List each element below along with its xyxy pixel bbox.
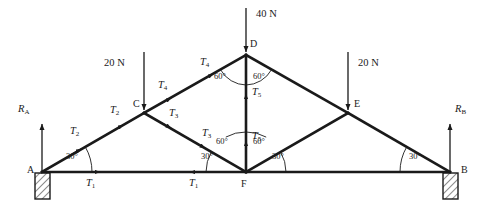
reaction-label-B-subscript: B [461, 108, 466, 116]
angle-label-F-right-60: 60° [253, 137, 265, 146]
load-label-20N-left: 20 N [104, 58, 125, 69]
t3-upper-subscript: 3 [175, 112, 179, 120]
node-label-D: D [250, 39, 257, 49]
member-A-C [42, 113, 144, 172]
member-C-F [144, 113, 246, 172]
angle-label-F-left-30: 30° [201, 152, 213, 161]
node-label-A: A [27, 165, 34, 175]
angle-label-A-30: 30° [66, 152, 78, 161]
t4-lower-subscript: 4 [164, 84, 168, 92]
t4-upper-subscript: 4 [206, 61, 210, 69]
node-label-C: C [133, 99, 140, 109]
t2-upper-subscript: 2 [116, 109, 120, 117]
force-arrow-T3-lower [196, 143, 205, 148]
truss-diagram-container: A B C D E F 40 N 20 N 20 N RA RB T1 T1 T… [0, 0, 492, 203]
node-label-E: E [354, 99, 360, 109]
load-label-40N: 40 N [256, 9, 277, 20]
support-B [443, 173, 458, 199]
node-label-F: F [241, 179, 247, 189]
angle-label-F-right-30: 30° [272, 152, 284, 161]
member-force-label-T4-lower: T4 [158, 80, 167, 92]
reaction-label-A-subscript: A [24, 108, 29, 116]
member-force-label-T4-upper: T4 [200, 57, 209, 69]
reaction-label-B: RB [455, 104, 466, 116]
member-force-label-T2-lower: T2 [70, 126, 79, 138]
member-force-label-T3-upper: T3 [169, 108, 178, 120]
t3-lower-subscript: 3 [208, 132, 212, 140]
t2-lower-subscript: 2 [76, 130, 80, 138]
angle-arc-F-left-60 [226, 132, 246, 137]
t1-left-subscript: 1 [92, 182, 96, 190]
force-arrow-T4-upper [204, 74, 213, 79]
member-force-label-T2-upper: T2 [110, 105, 119, 117]
member-force-label-T3-lower: T3 [202, 128, 211, 140]
angle-label-D-right-60: 60° [253, 72, 265, 81]
member-force-label-T1-left: T1 [86, 178, 95, 190]
reaction-label-A: RA [18, 104, 29, 116]
truss-members-group [42, 55, 450, 172]
t1-right-subscript: 1 [195, 182, 199, 190]
angle-label-F-left-60: 60° [216, 137, 228, 146]
support-A [35, 173, 50, 199]
angle-label-D-left-60: 60° [214, 72, 226, 81]
member-force-label-T5-upper: T5 [252, 87, 261, 99]
angle-arc-B-30 [400, 147, 407, 172]
angle-arc-A-30 [85, 147, 92, 172]
member-force-label-T1-right: T1 [189, 178, 198, 190]
truss-diagram-svg [0, 0, 492, 203]
node-label-B: B [461, 165, 468, 175]
member-D-E [246, 55, 348, 113]
member-E-B [348, 113, 450, 172]
load-label-20N-right: 20 N [358, 58, 379, 69]
angle-label-B-30: 30° [409, 152, 421, 161]
t5-upper-subscript: 5 [258, 91, 262, 99]
